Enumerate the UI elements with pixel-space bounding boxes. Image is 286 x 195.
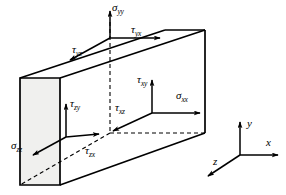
cube-front-face xyxy=(20,78,60,185)
cube-body xyxy=(20,22,205,185)
label-sigma-yy: σyy xyxy=(112,2,124,13)
label-sigma-zz: σzz xyxy=(11,140,22,151)
label-sigma-xx: σxx xyxy=(176,90,188,101)
coordinate-axes xyxy=(208,122,278,176)
label-tau-yz: τyz xyxy=(72,44,82,55)
stress-element-drawing xyxy=(0,0,286,195)
axis-label-y: y xyxy=(247,118,252,129)
label-tau-yx: τyx xyxy=(131,24,141,35)
label-tau-xy: τxy xyxy=(137,74,147,85)
label-tau-xz: τxz xyxy=(115,102,125,113)
axis-label-x: x xyxy=(266,137,271,148)
label-tau-zy: τzy xyxy=(70,98,80,109)
stress-element-figure: σyy τyx τyz τxy σxx τxz τzy τzx σzz y x … xyxy=(0,0,286,195)
label-tau-zx: τzx xyxy=(85,145,95,156)
axis-label-z: z xyxy=(213,156,217,167)
